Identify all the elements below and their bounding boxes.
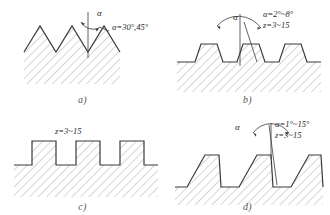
angle-symbol-b: α <box>233 12 238 22</box>
square-thread-drawing <box>0 107 165 214</box>
tooth-count-b: z=3~15 <box>263 20 289 30</box>
panel-buttress-thread: α α=1°~15° z=3~15 d) <box>165 107 330 214</box>
trapezoidal-profile-body <box>177 44 321 92</box>
angle-value-b: α=2°~8° <box>263 9 293 19</box>
triangular-thread-drawing <box>0 0 165 107</box>
caption-c: c) <box>0 201 165 212</box>
caption-b: b) <box>165 94 330 105</box>
angle-symbol-a: α <box>97 8 102 18</box>
square-profile-body <box>14 141 158 197</box>
angle-arc-indicator <box>217 16 261 30</box>
angle-value-a: α=30°,45° <box>112 22 148 32</box>
tooth-count-d: z=3~15 <box>275 130 301 140</box>
panel-triangular-thread: α α=30°,45° a) <box>0 0 165 107</box>
panel-square-thread: z=3~15 c) <box>0 107 165 214</box>
angle-value-d: α=1°~15° <box>275 119 309 129</box>
triangular-profile-body <box>24 26 120 84</box>
caption-d: d) <box>165 201 330 212</box>
trapezoidal-thread-drawing <box>165 0 330 107</box>
tooth-count-c: z=3~15 <box>55 126 81 136</box>
caption-a: a) <box>0 94 165 105</box>
panel-trapezoidal-thread: α α=2°~8° z=3~15 b) <box>165 0 330 107</box>
angle-symbol-d: α <box>235 122 240 132</box>
buttress-profile-body <box>175 155 323 205</box>
